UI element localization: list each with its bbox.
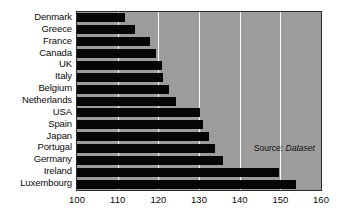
bar-row: [77, 97, 321, 106]
x-axis-ticks: 100110120130140150160: [76, 193, 322, 211]
plot-area: [76, 11, 322, 191]
bar: [77, 37, 150, 46]
x-tick-label-100: 100: [69, 193, 85, 207]
bar: [77, 13, 125, 22]
category-label-netherlands: Netherlands: [0, 94, 72, 106]
category-label-luxembourg: Luxembourg: [0, 177, 72, 189]
bar-row: [77, 120, 321, 129]
bar-chart: DenmarkGreeceFranceCanadaUKItalyBelgiumN…: [0, 0, 339, 219]
bar-row: [77, 61, 321, 70]
category-label-italy: Italy: [0, 70, 72, 82]
bar: [77, 61, 162, 70]
source-note-prefix: Source:: [254, 143, 283, 153]
x-tick-label-150: 150: [272, 193, 288, 207]
bar: [77, 49, 156, 58]
bar-row: [77, 85, 321, 94]
bar-row: [77, 180, 321, 189]
bar-row: [77, 73, 321, 82]
bar: [77, 156, 223, 165]
category-axis-labels: DenmarkGreeceFranceCanadaUKItalyBelgiumN…: [0, 11, 72, 191]
source-note: Source: Dataset: [254, 143, 315, 154]
category-label-france: France: [0, 35, 72, 47]
bar-series: [77, 12, 321, 190]
bar: [77, 73, 163, 82]
category-label-greece: Greece: [0, 23, 72, 35]
x-tick-label-130: 130: [191, 193, 207, 207]
category-label-uk: UK: [0, 58, 72, 70]
category-label-canada: Canada: [0, 47, 72, 59]
bar: [77, 144, 215, 153]
category-label-japan: Japan: [0, 130, 72, 142]
category-label-usa: USA: [0, 106, 72, 118]
bar-row: [77, 108, 321, 117]
bar: [77, 168, 279, 177]
category-label-germany: Germany: [0, 153, 72, 165]
category-label-portugal: Portugal: [0, 141, 72, 153]
x-tick-label-120: 120: [150, 193, 166, 207]
category-label-spain: Spain: [0, 118, 72, 130]
bar-row: [77, 13, 321, 22]
bar: [77, 97, 176, 106]
x-tick-label-110: 110: [110, 193, 125, 207]
bar: [77, 25, 135, 34]
bar-row: [77, 25, 321, 34]
source-note-value: Dataset: [286, 143, 315, 153]
bar: [77, 132, 209, 141]
bar: [77, 108, 200, 117]
bar-row: [77, 132, 321, 141]
category-label-denmark: Denmark: [0, 11, 72, 23]
bar: [77, 85, 169, 94]
bar-row: [77, 37, 321, 46]
bar-row: [77, 156, 321, 165]
x-tick-label-140: 140: [232, 193, 248, 207]
bar-row: [77, 49, 321, 58]
bar: [77, 180, 296, 189]
x-tick-label-160: 160: [313, 193, 329, 207]
bar: [77, 120, 203, 129]
category-label-belgium: Belgium: [0, 82, 72, 94]
category-label-ireland: Ireland: [0, 165, 72, 177]
bar-row: [77, 168, 321, 177]
